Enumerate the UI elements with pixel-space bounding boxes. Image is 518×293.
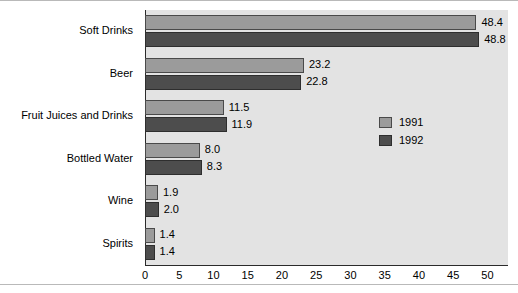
x-tick-label: 50: [472, 270, 502, 281]
x-tick-label: 0: [130, 270, 160, 281]
bar-value-label: 48.4: [481, 17, 502, 28]
bar-1991-fruit-juices-and-drinks: [145, 100, 224, 115]
bar-value-label: 1.9: [163, 187, 178, 198]
bar-value-label: 8.3: [207, 161, 222, 172]
bar-value-label: 2.0: [164, 204, 179, 215]
category-label: Soft Drinks: [79, 25, 133, 36]
x-tick-label: 20: [267, 270, 297, 281]
bottom-divider-rule: [0, 284, 518, 285]
bar-1992-wine: [145, 202, 159, 217]
x-tick-label: 45: [438, 270, 468, 281]
bar-1991-bottled-water: [145, 143, 200, 158]
legend-label: 1991: [399, 117, 423, 128]
bar-value-label: 48.8: [484, 34, 505, 45]
bar-value-label: 1.4: [160, 229, 175, 240]
category-label: Wine: [108, 195, 133, 206]
legend-label: 1992: [399, 135, 423, 146]
bar-value-label: 8.0: [205, 144, 220, 155]
legend-item-1991: 1991: [379, 115, 423, 130]
top-divider-rule: [0, 0, 518, 1]
x-tick-label: 40: [404, 270, 434, 281]
bar-1992-bottled-water: [145, 160, 202, 175]
category-label: Bottled Water: [67, 153, 133, 164]
legend-item-1992: 1992: [379, 133, 423, 148]
category-label: Beer: [110, 68, 133, 79]
legend-swatch-icon: [379, 135, 392, 146]
bar-value-label: 11.5: [229, 102, 250, 113]
x-tick-label: 15: [233, 270, 263, 281]
x-tick-label: 10: [198, 270, 228, 281]
bar-value-label: 11.9: [232, 119, 253, 130]
bar-1991-soft-drinks: [145, 15, 476, 30]
chart-legend: 19911992: [379, 115, 423, 151]
x-tick-label: 30: [335, 270, 365, 281]
bar-1992-spirits: [145, 245, 155, 260]
category-label: Fruit Juices and Drinks: [21, 110, 133, 121]
bar-value-label: 23.2: [309, 59, 330, 70]
bar-1991-spirits: [145, 228, 155, 243]
bar-1991-beer: [145, 58, 304, 73]
bar-1992-soft-drinks: [145, 32, 479, 47]
bar-value-label: 1.4: [160, 246, 175, 257]
category-axis-labels: Soft DrinksBeerFruit Juices and DrinksBo…: [0, 10, 140, 265]
x-tick-label: 5: [164, 270, 194, 281]
bar-1991-wine: [145, 185, 158, 200]
bar-1992-fruit-juices-and-drinks: [145, 117, 227, 132]
bar-1992-beer: [145, 75, 301, 90]
x-axis-line: [145, 265, 508, 266]
plot-area: [145, 10, 508, 265]
bar-chart-figure: Soft DrinksBeerFruit Juices and DrinksBo…: [0, 0, 518, 293]
x-tick-label: 25: [301, 270, 331, 281]
x-tick-label: 35: [370, 270, 400, 281]
category-label: Spirits: [102, 238, 133, 249]
legend-swatch-icon: [379, 117, 392, 128]
bar-value-label: 22.8: [306, 76, 327, 87]
